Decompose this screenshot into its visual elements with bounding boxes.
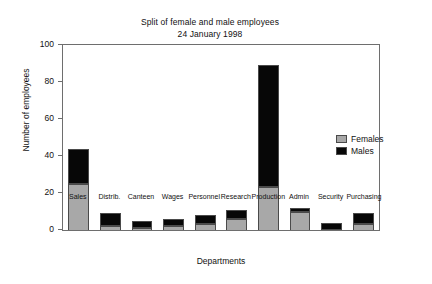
y-tick-label: 0 (49, 224, 54, 234)
bar-segment-females (290, 212, 311, 231)
bar-segment-females (100, 226, 121, 230)
plot-area: 020406080100 (62, 44, 380, 231)
bar-segment-males (353, 213, 374, 224)
y-tick: 60 (58, 118, 63, 119)
x-tick-label: Personnel (188, 193, 220, 200)
bar-research (226, 210, 247, 230)
y-tick-label: 80 (45, 76, 54, 86)
bar-segment-females (195, 224, 216, 230)
bar-wages (163, 219, 184, 230)
chart-subtitle: 24 January 1998 (60, 28, 360, 40)
bar-canteen (132, 221, 153, 230)
x-tick-label: Purchasing (346, 193, 378, 200)
legend-label-females: Females (351, 134, 384, 144)
y-tick: 40 (58, 155, 63, 156)
bar-purchasing (353, 213, 374, 230)
chart-figure: Split of female and male employees 24 Ja… (0, 0, 432, 284)
x-tick-label: Admin (283, 193, 315, 200)
bar-segment-males (226, 210, 247, 219)
legend-label-males: Males (351, 146, 374, 156)
legend-item-females: Females (336, 133, 384, 145)
bar-admin (290, 208, 311, 230)
legend-swatch-females-icon (336, 135, 347, 143)
bar-segment-males (100, 213, 121, 226)
bar-distrib (100, 213, 121, 230)
chart-title-block: Split of female and male employees 24 Ja… (60, 16, 360, 40)
y-tick-label: 20 (45, 187, 54, 197)
y-tick: 100 (58, 44, 63, 45)
y-tick: 0 (58, 229, 63, 230)
y-tick: 80 (58, 81, 63, 82)
x-tick-label: Security (315, 193, 347, 200)
legend-swatch-males-icon (336, 147, 347, 155)
bar-segment-males (258, 65, 279, 187)
chart-title: Split of female and male employees (60, 16, 360, 28)
bar-segment-males (195, 215, 216, 224)
y-tick-label: 40 (45, 150, 54, 160)
x-axis-label: Departments (62, 256, 380, 266)
x-tick-label: Production (252, 193, 284, 200)
bar-security (321, 223, 342, 230)
x-tick-label: Distrib. (94, 193, 126, 200)
bar-sales (68, 149, 89, 230)
y-tick-label: 60 (45, 113, 54, 123)
bar-segment-males (68, 149, 89, 184)
legend-item-males: Males (336, 145, 384, 157)
bar-segment-males (132, 221, 153, 228)
chart-legend: Females Males (336, 133, 384, 157)
y-axis-label: Number of employees (21, 40, 31, 180)
x-tick-label: Wages (157, 193, 189, 200)
x-tick-label: Sales (62, 193, 94, 200)
y-tick-label: 100 (40, 39, 54, 49)
bar-segment-males (321, 223, 342, 230)
bar-segment-females (68, 184, 89, 230)
bar-production (258, 65, 279, 230)
x-tick-label: Canteen (125, 193, 157, 200)
plot-inner: 020406080100 (63, 45, 379, 230)
bar-segment-females (163, 226, 184, 230)
bar-segment-females (132, 228, 153, 230)
bar-segment-males (163, 219, 184, 226)
bar-segment-females (353, 224, 374, 230)
bar-segment-females (226, 219, 247, 230)
bar-personnel (195, 215, 216, 230)
x-tick-label: Research (220, 193, 252, 200)
